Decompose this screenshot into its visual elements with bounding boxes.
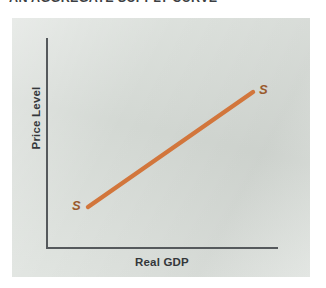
y-axis-title: Price Level (30, 73, 42, 163)
supply-curve-graphic (12, 18, 310, 277)
x-axis-title: Real GDP (46, 256, 278, 268)
chart-panel: S S Price Level Real GDP (12, 18, 310, 277)
curve-label-s-lower: S (72, 199, 81, 212)
figure-container: AN AGGREGATE SUPPLY CURVE S S Price Leve… (0, 0, 326, 288)
curve-label-s-upper: S (259, 83, 268, 96)
figure-title: AN AGGREGATE SUPPLY CURVE (9, 0, 309, 7)
x-axis-line (46, 247, 278, 249)
supply-curve-line (88, 92, 253, 207)
y-axis-line (46, 38, 48, 249)
